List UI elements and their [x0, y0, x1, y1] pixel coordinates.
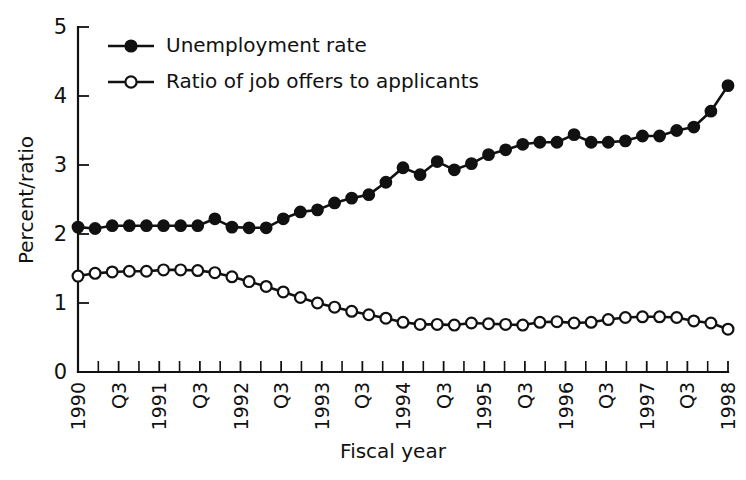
data-point-marker	[227, 271, 238, 282]
x-axis-tick-label: Q3	[108, 382, 130, 409]
data-point-marker	[295, 292, 306, 303]
data-point-marker	[329, 197, 340, 208]
x-axis-tick-label: 1992	[230, 382, 252, 430]
y-axis-tick-label: 2	[54, 222, 67, 246]
series-path	[78, 86, 728, 229]
data-point-marker	[671, 125, 682, 136]
data-point-marker	[107, 267, 118, 278]
data-point-marker	[620, 135, 631, 146]
data-point-marker	[192, 220, 203, 231]
data-point-marker	[90, 268, 101, 279]
x-axis-tick-label: Q3	[514, 382, 536, 409]
data-point-marker	[723, 324, 734, 335]
x-axis-tick-label: 1996	[555, 382, 577, 430]
data-point-marker	[141, 220, 152, 231]
data-point-marker	[705, 106, 716, 117]
data-point-marker	[432, 319, 443, 330]
data-point-marker	[107, 220, 118, 231]
x-axis-title: Fiscal year	[340, 439, 447, 463]
data-point-marker	[637, 311, 648, 322]
data-point-marker	[346, 306, 357, 317]
data-point-marker	[415, 319, 426, 330]
data-point-marker	[192, 265, 203, 276]
data-point-marker	[398, 317, 409, 328]
data-point-marker	[312, 204, 323, 215]
data-point-marker	[346, 193, 357, 204]
x-axis-tick-label: Q3	[270, 382, 292, 409]
data-point-marker	[278, 213, 289, 224]
data-point-marker	[73, 271, 84, 282]
data-point-marker	[90, 223, 101, 234]
y-axis-tick-label: 3	[54, 153, 67, 177]
x-axis-tick-label: 1994	[392, 382, 414, 430]
data-point-marker	[449, 320, 460, 331]
data-point-marker	[261, 222, 272, 233]
legend-swatch-marker	[125, 76, 136, 87]
data-series-group	[72, 80, 733, 335]
data-point-marker	[226, 222, 237, 233]
y-axis: 012345	[54, 15, 89, 384]
data-point-marker	[603, 137, 614, 148]
data-point-marker	[534, 137, 545, 148]
x-axis: 1990Q31991Q31992Q31993Q31994Q31995Q31996…	[67, 361, 739, 430]
data-point-marker	[175, 264, 186, 275]
data-point-marker	[603, 314, 614, 325]
data-point-marker	[688, 316, 699, 327]
data-point-marker	[244, 276, 255, 287]
data-point-marker	[141, 266, 152, 277]
data-point-marker	[312, 298, 323, 309]
data-point-marker	[500, 144, 511, 155]
data-point-marker	[620, 312, 631, 323]
y-axis-title: Percent/ratio	[14, 136, 38, 264]
data-point-marker	[569, 318, 580, 329]
data-point-marker	[243, 222, 254, 233]
data-point-marker	[517, 139, 528, 150]
chart-figure: 012345 1990Q31991Q31992Q31993Q31994Q3199…	[0, 0, 746, 480]
y-axis-tick-label: 1	[54, 291, 67, 315]
data-point-marker	[380, 313, 391, 324]
data-point-marker	[209, 267, 220, 278]
data-point-marker	[415, 169, 426, 180]
data-point-marker	[432, 156, 443, 167]
data-point-marker	[175, 220, 186, 231]
legend-swatch-marker	[125, 40, 137, 52]
x-axis-tick-label: 1991	[148, 382, 170, 430]
x-axis-tick-label: Q3	[433, 382, 455, 409]
x-axis-tick-label: Q3	[595, 382, 617, 409]
data-point-marker	[449, 164, 460, 175]
x-axis-tick-label: 1997	[636, 382, 658, 430]
legend-item-job-offers-ratio: Ratio of job offers to applicants	[108, 69, 479, 93]
data-point-marker	[551, 137, 562, 148]
data-point-marker	[534, 317, 545, 328]
data-point-marker	[397, 162, 408, 173]
data-point-marker	[483, 149, 494, 160]
legend-item-unemployment-rate: Unemployment rate	[108, 33, 367, 57]
data-point-marker	[466, 158, 477, 169]
x-axis-tick-label: 1998	[717, 382, 739, 430]
data-point-marker	[705, 318, 716, 329]
data-point-marker	[363, 309, 374, 320]
y-axis-tick-label: 4	[54, 84, 67, 108]
data-point-marker	[568, 129, 579, 140]
data-point-marker	[380, 177, 391, 188]
series-unemployment-rate	[72, 80, 733, 234]
data-point-marker	[124, 266, 135, 277]
y-axis-tick-label: 5	[54, 15, 67, 39]
data-point-marker	[671, 312, 682, 323]
data-point-marker	[586, 137, 597, 148]
data-point-marker	[295, 206, 306, 217]
x-axis-tick-label: Q3	[351, 382, 373, 409]
data-point-marker	[552, 316, 563, 327]
data-point-marker	[637, 130, 648, 141]
data-point-marker	[586, 317, 597, 328]
data-point-marker	[209, 213, 220, 224]
data-point-marker	[278, 287, 289, 298]
x-axis-tick-label: 1995	[473, 382, 495, 430]
data-point-marker	[158, 220, 169, 231]
data-point-marker	[158, 264, 169, 275]
data-point-marker	[72, 222, 83, 233]
y-axis-tick-label: 0	[54, 360, 67, 384]
x-axis-tick-label: 1993	[311, 382, 333, 430]
legend-item-label: Unemployment rate	[166, 33, 367, 57]
legend-item-label: Ratio of job offers to applicants	[166, 69, 479, 93]
